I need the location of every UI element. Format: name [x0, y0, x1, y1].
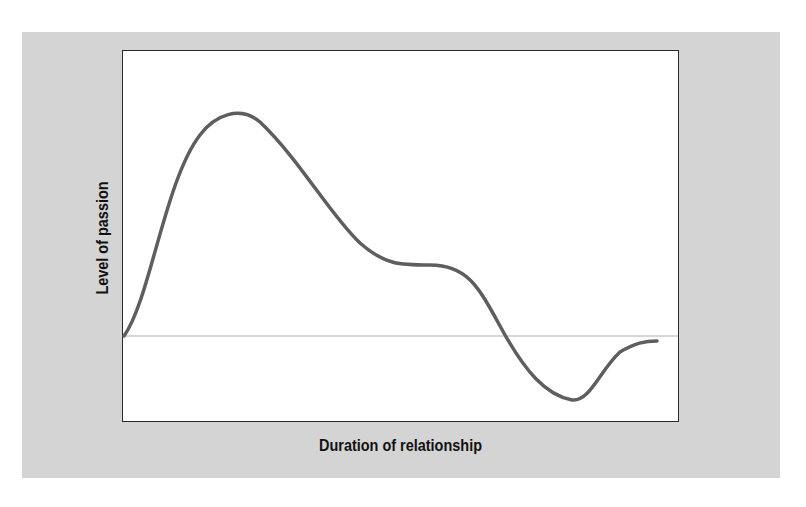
- x-axis-label: Duration of relationship: [164, 436, 637, 456]
- y-axis-label: Level of passion: [93, 181, 113, 294]
- chart-svg: [0, 0, 806, 507]
- passion-curve: [124, 113, 657, 400]
